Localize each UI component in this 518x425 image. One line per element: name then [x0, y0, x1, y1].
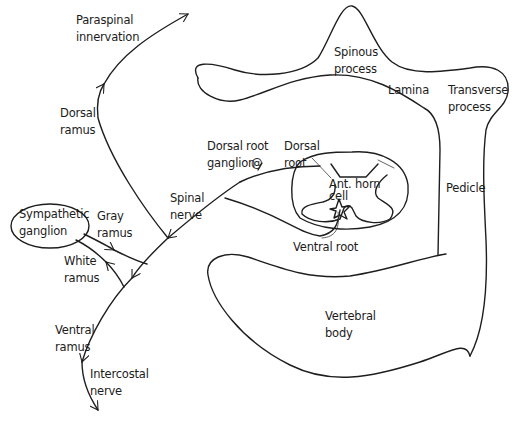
label-ventral-root: Ventral root [293, 239, 358, 256]
label-pedicle: Pedicle [446, 180, 485, 197]
spinal-nerve-trunk-lower [132, 238, 168, 278]
cord-tract-lines [312, 158, 394, 178]
label-dorsal-root: Dorsal root [284, 138, 320, 172]
label-spinous-process: Spinous process [334, 44, 378, 78]
gray-ramus-continue [114, 250, 147, 264]
label-transverse-process: Transverse process [448, 82, 508, 116]
label-ventral-ramus: Ventral ramus [55, 322, 94, 356]
label-lamina: Lamina [388, 82, 429, 99]
label-spinal-nerve: Spinal nerve [170, 190, 204, 224]
ganglion-marker-icon: @ [251, 155, 262, 172]
label-ant-horn-cell: Ant. horn cell [329, 178, 380, 202]
white-ramus-nerve [106, 262, 124, 287]
label-sympathetic-ganglion: Sympathetic ganglion [19, 206, 89, 240]
label-paraspinal-innervation: Paraspinal innervation [76, 12, 139, 46]
label-gray-ramus: Gray ramus [97, 208, 132, 242]
ventral-root-nerve [225, 198, 340, 236]
label-intercostal-nerve: Intercostal nerve [90, 366, 149, 400]
label-white-ramus: White ramus [64, 253, 99, 287]
label-dorsal-ramus: Dorsal ramus [60, 105, 96, 139]
label-vertebral-body: Vertebral body [325, 308, 376, 342]
